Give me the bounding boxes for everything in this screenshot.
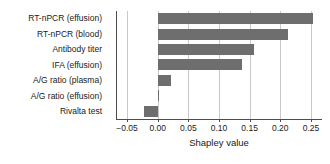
bar [158,90,159,101]
bar-row [116,42,322,57]
y-axis-spine [116,11,117,119]
y-axis-tick-label: A/G ratio (effusion) [0,88,108,103]
bar-row [116,57,322,72]
x-axis-spine [116,119,322,120]
bar-row [116,11,322,26]
y-axis-tick-label: A/G ratio (plasma) [0,73,108,88]
bar [158,75,171,86]
x-axis-tick-label: 0.05 [180,124,197,133]
x-axis-tick-label: 0.25 [303,124,320,133]
bar [158,44,254,55]
x-axis-tick-label: 0.15 [241,124,258,133]
plot-area: −0.050.000.050.100.150.200.25 [116,11,322,119]
shapley-value-bar-chart: RT-nPCR (effusion) RT-nPCR (blood) Antib… [0,0,330,164]
bar [144,106,158,117]
y-axis-tick-label: Antibody titer [0,42,108,57]
x-axis-tick-label: 0.10 [211,124,228,133]
x-axis-tick-label: 0.00 [149,124,166,133]
y-axis-tick-label: Rivalta test [0,104,108,119]
y-axis-tick-label: RT-nPCR (effusion) [0,11,108,26]
x-axis-tick-label: −0.05 [116,124,138,133]
y-axis-tick-labels: RT-nPCR (effusion) RT-nPCR (blood) Antib… [0,11,108,119]
bar-row [116,73,322,88]
bar [158,59,242,70]
bar-row [116,26,322,41]
bar-row [116,104,322,119]
x-axis-tick-label: 0.20 [272,124,289,133]
bar [158,13,313,24]
bar-row [116,88,322,103]
x-axis-title: Shapley value [116,138,322,148]
bar [158,29,288,40]
y-axis-tick-label: RT-nPCR (blood) [0,26,108,41]
y-axis-tick-label: IFA (effusion) [0,57,108,72]
